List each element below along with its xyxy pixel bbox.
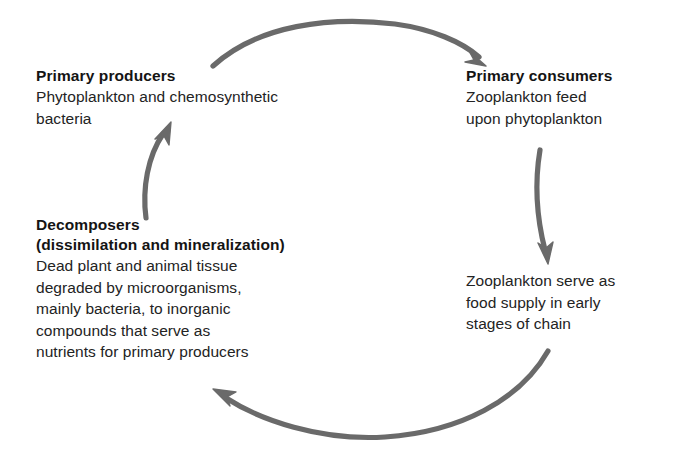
node-decomposers-body-line: degraded by microorganisms, [36, 277, 366, 299]
node-zooplankton-supply-body-line: food supply in early [466, 292, 681, 314]
node-primary-producers-body: Phytoplankton and chemosynthetic bacteri… [36, 86, 366, 129]
node-primary-producers-body-line: Phytoplankton and chemosynthetic [36, 86, 366, 108]
arrow-bottom [213, 351, 548, 437]
node-primary-consumers: Primary consumers Zooplankton feed upon … [466, 66, 681, 129]
node-decomposers-subtitle: (dissimilation and mineralization) [36, 235, 366, 255]
node-primary-consumers-body: Zooplankton feed upon phytoplankton [466, 86, 681, 129]
node-zooplankton-supply-body: Zooplankton serve as food supply in earl… [466, 270, 681, 335]
node-decomposers-body-line: mainly bacteria, to inorganic [36, 298, 366, 320]
node-decomposers: Decomposers (dissimilation and mineraliz… [36, 215, 366, 363]
node-decomposers-title: Decomposers [36, 215, 366, 235]
node-primary-producers: Primary producers Phytoplankton and chem… [36, 66, 366, 129]
arrow-top [213, 21, 486, 66]
node-decomposers-body-line: nutrients for primary producers [36, 341, 366, 363]
arrow-right [537, 150, 553, 264]
diagram-canvas: Primary producers Phytoplankton and chem… [0, 0, 684, 453]
arrow-left [145, 122, 171, 218]
node-decomposers-body-line: Dead plant and animal tissue [36, 255, 366, 277]
node-primary-consumers-body-line: upon phytoplankton [466, 108, 681, 130]
node-primary-producers-title: Primary producers [36, 66, 366, 86]
node-primary-consumers-body-line: Zooplankton feed [466, 86, 681, 108]
node-decomposers-body: Dead plant and animal tissue degraded by… [36, 255, 366, 363]
node-decomposers-body-line: compounds that serve as [36, 320, 366, 342]
node-zooplankton-supply-body-line: stages of chain [466, 313, 681, 335]
node-zooplankton-supply-body-line: Zooplankton serve as [466, 270, 681, 292]
node-primary-producers-body-line: bacteria [36, 108, 366, 130]
node-zooplankton-supply: Zooplankton serve as food supply in earl… [466, 270, 681, 335]
node-primary-consumers-title: Primary consumers [466, 66, 681, 86]
